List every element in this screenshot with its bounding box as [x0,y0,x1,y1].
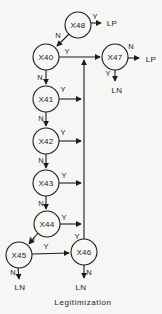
edge-label-x44-x45: N [29,235,34,244]
flowchart-svg: X48 X40 X47 X41 X42 X43 X44 X45 X46 Y N … [0,0,162,314]
terminal-lp-top: LP [107,19,118,28]
edge-label-x46-collector: Y [74,232,79,241]
edge-label-x45-x46: Y [43,242,48,251]
node-x45-label: X45 [12,251,27,260]
edge-label-x45-ln: N [10,268,15,277]
edge-label-x43-x44: N [38,199,43,208]
edge-label-x42-collector: Y [60,128,65,137]
terminal-ln-x46: LN [75,283,86,292]
figure-caption: Legitimization [54,298,111,307]
node-x47-label: X47 [108,53,123,62]
terminal-lp-right: LP [146,55,157,64]
terminal-ln-x47: LN [111,86,122,95]
edge-label-x40-x47: Y [64,47,69,56]
edge-label-x41-collector: Y [60,85,65,94]
node-x41-label: X41 [39,95,54,104]
edge-label-x47-lp: N [128,42,133,51]
node-x48-label: X48 [71,21,86,30]
edge-label-x47-ln: Y [105,69,110,78]
edge-label-x41-x42: N [38,114,43,123]
node-x42-label: X42 [39,137,54,146]
edge-label-x42-x43: N [38,156,43,165]
node-x44-label: X44 [40,220,55,229]
flowchart-figure: X48 X40 X47 X41 X42 X43 X44 X45 X46 Y N … [0,0,162,314]
node-x40-label: X40 [39,53,54,62]
node-x43-label: X43 [39,179,54,188]
edge-label-x44-collector: Y [61,213,66,222]
edge-label-x43-collector: Y [61,171,66,180]
edge-label-x46-ln: N [86,268,91,277]
edge-x45-x46-line [32,253,69,254]
terminal-ln-x45: LN [14,283,25,292]
edge-x45-ln-line [18,268,19,279]
edge-label-x48-lp: Y [92,12,97,21]
edge-label-x48-x40: N [55,31,60,40]
edge-label-x40-x41: N [37,73,42,82]
node-x46-label: X46 [77,248,92,257]
